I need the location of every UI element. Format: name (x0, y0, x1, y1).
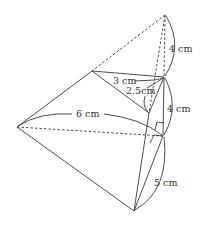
arc-inner-top (134, 78, 163, 81)
right-angle-marker-2 (150, 135, 162, 143)
label-inner-slant: 2.5cm (126, 85, 155, 96)
edge-innerbottom-bottom (134, 113, 149, 211)
edge-apex-rightmid-dashed (164, 15, 165, 77)
right-angle-marker (155, 122, 164, 130)
geometry-figure: 4 cm 4 cm 3 cm 2.5cm 6 cm 5 cm (0, 0, 200, 230)
label-left-length: 6 cm (76, 108, 99, 119)
label-mid-height: 4 cm (167, 103, 190, 114)
edge-apex-innerleft (92, 15, 165, 71)
label-bottom-length: 5 cm (154, 177, 177, 188)
label-top-height: 4 cm (169, 43, 192, 54)
edge-apex-innerbottom (149, 15, 165, 113)
edge-left-bottom (17, 127, 134, 211)
figure-canvas: 4 cm 4 cm 3 cm 2.5cm 6 cm 5 cm (0, 0, 200, 230)
arc-left-length-2 (104, 114, 162, 135)
edge-left-rightfoot (17, 127, 163, 136)
edge-rightmid-rightfoot (163, 77, 164, 136)
